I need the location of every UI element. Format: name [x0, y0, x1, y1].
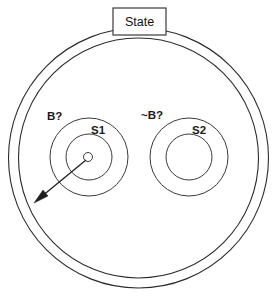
diagram-canvas: State B? S1 ~B? S2	[0, 0, 280, 306]
right-substate-outer-circle	[150, 118, 228, 196]
state-boundary-outer-circle	[9, 28, 269, 288]
left-substate-outer-label: B?	[47, 110, 62, 122]
exit-transition-arrowhead	[34, 190, 48, 203]
statechart-diagram: State B? S1 ~B? S2	[0, 0, 280, 306]
left-substate-outer-circle	[50, 118, 128, 196]
left-substate-inner-label: S1	[91, 124, 106, 136]
state-boundary-inner-circle	[19, 38, 259, 278]
left-substate-inner-circle	[66, 134, 112, 180]
right-substate-outer-label: ~B?	[141, 109, 163, 121]
right-substate-inner-circle	[166, 134, 212, 180]
state-title-label: State	[125, 15, 154, 29]
exit-transition-line	[41, 160, 86, 197]
right-substate-inner-label: S2	[192, 124, 206, 136]
